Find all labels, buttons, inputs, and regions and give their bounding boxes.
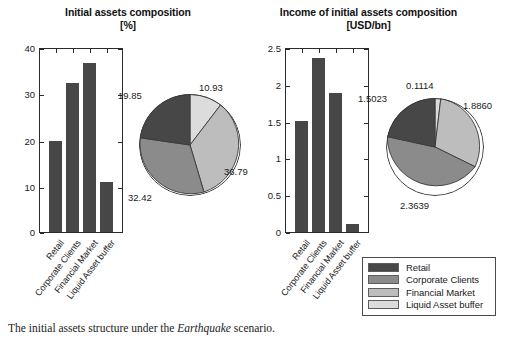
- left-ytick-label-0: 0: [12, 227, 35, 238]
- right-xtick-top-2: [319, 49, 320, 53]
- right-ytick-label-0_5: 0.5: [252, 190, 281, 201]
- left-ytick-label-40: 40: [12, 43, 35, 54]
- left-panel-title-unit: [%]: [28, 19, 228, 32]
- left-ytick-right-40: [118, 49, 122, 50]
- legend-label-corporate-clients: Corporate Clients: [406, 274, 479, 285]
- left-ytick-label-10: 10: [12, 181, 35, 192]
- left-bar-axes: [39, 48, 123, 233]
- right-ytick-label-0: 0: [252, 227, 281, 238]
- right-bar-liquid-asset-buffer: [346, 224, 359, 232]
- right-pie-label-retail: 1.5023: [358, 93, 387, 104]
- right-ytick-0_5: [286, 196, 290, 197]
- left-ytick-label-20: 20: [12, 135, 35, 146]
- caption-suffix: scenario.: [231, 322, 275, 334]
- left-ytick-label-30: 30: [12, 89, 35, 100]
- left-ytick-right-20: [118, 142, 122, 143]
- legend-label-financial-market: Financial Market: [406, 287, 475, 298]
- left-ytick-20: [40, 142, 44, 143]
- right-ytick-1_5: [286, 123, 290, 124]
- left-pie-label-financial-market: 36.79: [224, 166, 248, 177]
- left-xtick-top-1: [56, 49, 57, 53]
- right-ytick-label-1: 1: [252, 153, 281, 164]
- caption-prefix: The initial assets structure under the: [8, 322, 177, 334]
- right-ytick-label-2: 2: [252, 79, 281, 90]
- legend-item-corporate-clients: Corporate Clients: [368, 274, 490, 287]
- right-pie-chart: [386, 98, 484, 196]
- left-pie-label-liquid-asset-buffer: 10.93: [199, 82, 223, 93]
- right-ytick-right-2: [364, 86, 368, 87]
- right-bar-axes: [285, 48, 369, 233]
- left-ytick-40: [40, 49, 44, 50]
- legend: Retail Corporate Clients Financial Marke…: [362, 257, 496, 316]
- left-panel-title-text: Initial assets composition: [65, 6, 191, 18]
- legend-item-retail: Retail: [368, 261, 490, 274]
- left-pie-label-retail: 19.85: [118, 90, 142, 101]
- right-ytick-label-2_5: 2.5: [252, 43, 281, 54]
- right-pie-label-corporate-clients: 2.3639: [400, 200, 429, 211]
- right-ytick-right-1_5: [364, 123, 368, 124]
- caption-emphasis: Earthquake: [177, 322, 231, 334]
- left-bar-liquid-asset-buffer: [100, 182, 113, 232]
- legend-swatch-corporate-clients: [368, 275, 399, 284]
- right-panel-title: Income of initial assets composition [US…: [256, 6, 481, 32]
- left-bar-retail: [49, 141, 62, 232]
- right-panel-title-text: Income of initial assets composition: [280, 6, 457, 18]
- legend-label-liquid-asset-buffer: Liquid Asset buffer: [406, 299, 483, 310]
- legend-swatch-liquid-asset-buffer: [368, 300, 399, 309]
- right-xtick-top-4: [353, 49, 354, 53]
- right-xtick-top-1: [302, 49, 303, 53]
- right-bar-financial-market: [329, 93, 342, 232]
- right-pie-label-financial-market: 1.8860: [463, 100, 492, 111]
- right-bar-retail: [295, 121, 308, 232]
- right-xtick-top-3: [336, 49, 337, 53]
- right-ytick-1: [286, 159, 290, 160]
- left-bar-financial-market: [83, 63, 96, 232]
- figure-root: Initial assets composition [%] 40 30 20 …: [0, 0, 505, 344]
- right-ytick-2_5: [286, 49, 290, 50]
- right-panel-title-unit: [USD/bn]: [256, 19, 481, 32]
- right-pie-svg: [386, 98, 484, 196]
- left-pie-label-corporate-clients: 32.42: [128, 192, 152, 203]
- left-ytick-0: [40, 233, 44, 234]
- left-xtick-top-2: [73, 49, 74, 53]
- left-panel-title: Initial assets composition [%]: [28, 6, 228, 32]
- right-ytick-right-2_5: [364, 49, 368, 50]
- left-pie-svg: [139, 94, 241, 196]
- right-ytick-0: [286, 233, 290, 234]
- right-ytick-right-1: [364, 159, 368, 160]
- right-pie-label-liquid-asset-buffer: 0.1114: [406, 80, 434, 91]
- left-ytick-30: [40, 95, 44, 96]
- right-ytick-right-0_5: [364, 196, 368, 197]
- left-bar-corporate-clients: [66, 83, 79, 232]
- left-xtick-top-4: [107, 49, 108, 53]
- right-bar-corporate-clients: [312, 58, 325, 232]
- left-ytick-right-10: [118, 188, 122, 189]
- left-xtick-top-3: [90, 49, 91, 53]
- legend-item-liquid-asset-buffer: Liquid Asset buffer: [368, 299, 490, 312]
- legend-label-retail: Retail: [406, 262, 430, 273]
- legend-swatch-financial-market: [368, 288, 399, 297]
- left-ytick-10: [40, 188, 44, 189]
- legend-swatch-retail: [368, 263, 399, 272]
- figure-caption: The initial assets structure under the E…: [8, 322, 275, 334]
- left-pie-chart: [139, 94, 241, 196]
- legend-item-financial-market: Financial Market: [368, 286, 490, 299]
- right-ytick-label-1_5: 1.5: [252, 116, 281, 127]
- right-ytick-2: [286, 86, 290, 87]
